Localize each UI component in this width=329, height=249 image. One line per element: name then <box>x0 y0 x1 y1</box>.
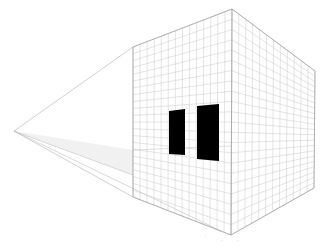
edge-label: · <box>205 234 206 239</box>
window-2 <box>197 104 219 161</box>
right-face-grid <box>231 9 315 235</box>
window-1 <box>169 109 185 155</box>
edge-label: · <box>221 238 222 243</box>
vanishing-guides <box>14 47 221 231</box>
windows <box>169 104 219 161</box>
perspective-cube-diagram <box>0 0 329 249</box>
edge-label: · <box>237 238 238 243</box>
